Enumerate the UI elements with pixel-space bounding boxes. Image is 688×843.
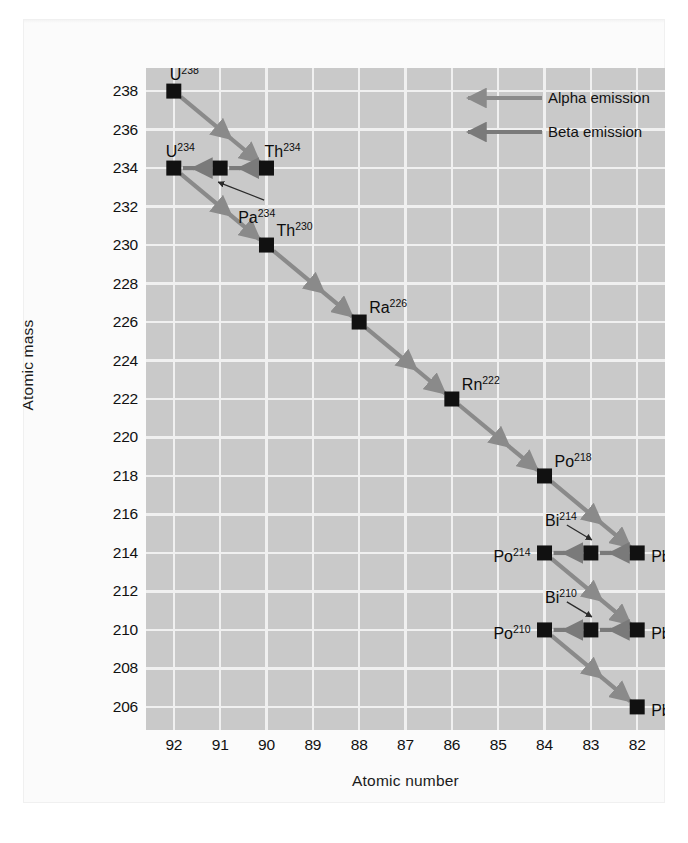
nuclide-label-Bi210: Bi210 — [545, 590, 577, 606]
data-point-Po214[interactable] — [537, 545, 552, 560]
y-tick-label: 220 — [78, 428, 138, 446]
y-tick-label: 228 — [78, 275, 138, 293]
decay-chain-figure: U238Th234Pa234U234Th230Ra226Rn222Po218Pb… — [0, 0, 688, 843]
data-point-Po218[interactable] — [537, 468, 552, 483]
nuclide-label-U238: U238 — [170, 68, 199, 83]
y-tick-label: 210 — [78, 621, 138, 639]
leader-line-Pa234 — [218, 182, 264, 200]
chart-svg — [146, 68, 665, 730]
nuclide-label-Po214: Po214 — [493, 549, 530, 565]
x-tick-label: 84 — [525, 736, 565, 754]
x-tick-label: 90 — [246, 736, 286, 754]
x-axis-ticks: 9291908988878685848382 — [146, 736, 665, 762]
legend — [468, 98, 542, 132]
data-point-Rn222[interactable] — [444, 392, 459, 407]
x-tick-label: 83 — [571, 736, 611, 754]
y-tick-label: 216 — [78, 505, 138, 523]
nuclide-label-Po210: Po210 — [493, 626, 530, 642]
nuclide-label-Rn222: Rn222 — [462, 377, 500, 393]
nuclide-label-Pb210: Pb210 — [651, 626, 665, 642]
data-point-Th230[interactable] — [259, 238, 274, 253]
data-point-Pb206[interactable] — [630, 699, 645, 714]
x-tick-label: 89 — [293, 736, 333, 754]
y-tick-label: 218 — [78, 467, 138, 485]
nuclide-label-Ra226: Ra226 — [369, 300, 407, 316]
x-tick-label: 86 — [432, 736, 472, 754]
data-point-Pb210[interactable] — [630, 622, 645, 637]
nuclide-label-Pb214: Pb214 — [651, 549, 665, 565]
data-point-Po210[interactable] — [537, 622, 552, 637]
x-tick-label: 82 — [617, 736, 657, 754]
y-tick-label: 212 — [78, 582, 138, 600]
y-tick-label: 208 — [78, 659, 138, 677]
data-point-U234[interactable] — [166, 161, 181, 176]
x-tick-label: 91 — [200, 736, 240, 754]
figure-card: U238Th234Pa234U234Th230Ra226Rn222Po218Pb… — [24, 20, 664, 802]
nuclide-label-Pa234: Pa234 — [238, 210, 275, 226]
nuclide-label-Th234: Th234 — [264, 144, 300, 160]
data-point-Bi214[interactable] — [583, 545, 598, 560]
y-tick-label: 214 — [78, 544, 138, 562]
y-tick-label: 206 — [78, 698, 138, 716]
y-tick-label: 234 — [78, 159, 138, 177]
x-tick-label: 87 — [386, 736, 426, 754]
nuclide-label-Po218: Po218 — [555, 454, 592, 470]
y-axis-title: Atomic mass — [19, 275, 37, 455]
y-tick-label: 232 — [78, 198, 138, 216]
y-tick-label: 222 — [78, 390, 138, 408]
x-tick-label: 88 — [339, 736, 379, 754]
data-point-Bi210[interactable] — [583, 622, 598, 637]
data-point-Ra226[interactable] — [352, 315, 367, 330]
y-tick-label: 238 — [78, 82, 138, 100]
legend-label-alpha: Alpha emission — [548, 90, 650, 105]
x-tick-label: 85 — [478, 736, 518, 754]
y-tick-label: 236 — [78, 121, 138, 139]
data-point-Pb214[interactable] — [630, 545, 645, 560]
legend-label-beta: Beta emission — [548, 124, 642, 139]
x-tick-label: 92 — [154, 736, 194, 754]
nuclide-label-Bi214: Bi214 — [545, 513, 577, 529]
data-point-Pa234[interactable] — [213, 161, 228, 176]
nuclide-label-Pb206: Pb206 — [651, 703, 665, 719]
data-point-U238[interactable] — [166, 84, 181, 99]
y-axis-ticks: 2382362342322302282262242222202182162142… — [74, 68, 138, 730]
x-axis-title: Atomic number — [146, 772, 665, 790]
plot-canvas: U238Th234Pa234U234Th230Ra226Rn222Po218Pb… — [146, 68, 665, 730]
y-tick-label: 226 — [78, 313, 138, 331]
nuclide-label-Th230: Th230 — [276, 223, 312, 239]
y-tick-label: 230 — [78, 236, 138, 254]
plot-area: U238Th234Pa234U234Th230Ra226Rn222Po218Pb… — [146, 68, 665, 730]
y-tick-label: 224 — [78, 352, 138, 370]
nuclide-label-U234: U234 — [166, 144, 195, 160]
data-point-Th234[interactable] — [259, 161, 274, 176]
